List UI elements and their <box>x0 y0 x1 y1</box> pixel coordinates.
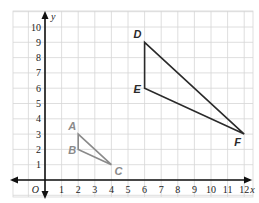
y-axis-label: y <box>50 11 56 22</box>
vertex-label-e: E <box>134 83 142 95</box>
x-tick-label: 5 <box>126 184 131 195</box>
y-tick-label: 9 <box>36 37 41 48</box>
y-tick-label: 2 <box>36 144 41 155</box>
y-tick-label: 4 <box>36 113 41 124</box>
x-tick-label: 1 <box>59 184 64 195</box>
x-tick-label: 12 <box>239 184 249 195</box>
x-tick-label: 3 <box>92 184 97 195</box>
y-tick-label: 5 <box>36 98 41 109</box>
y-tick-label: 10 <box>31 22 41 33</box>
y-tick-label: 3 <box>36 129 41 140</box>
y-tick-label: 7 <box>36 67 41 78</box>
x-tick-label: 7 <box>159 184 164 195</box>
triangles: ABCDEF <box>67 28 244 176</box>
tick-labels: 12345678910111212345678910Oxy <box>31 11 255 195</box>
x-tick-label: 10 <box>206 184 216 195</box>
x-axis-arrow-right-icon <box>244 177 252 184</box>
axes <box>10 11 252 199</box>
vertex-label-f: F <box>234 136 241 148</box>
y-tick-label: 1 <box>36 159 41 170</box>
origin-label: O <box>32 184 39 195</box>
y-axis-arrow-up-icon <box>42 11 49 19</box>
x-axis-arrow-left-icon <box>10 177 18 184</box>
vertex-label-d: D <box>134 28 142 40</box>
x-tick-label: 11 <box>223 184 233 195</box>
x-tick-label: 4 <box>109 184 114 195</box>
x-tick-label: 9 <box>192 184 197 195</box>
x-axis-label: x <box>249 184 255 195</box>
y-tick-label: 8 <box>36 52 41 63</box>
y-tick-label: 6 <box>36 83 41 94</box>
coordinate-plane: 12345678910111212345678910Oxy ABCDEF <box>0 0 259 203</box>
vertex-label-c: C <box>114 165 123 177</box>
x-tick-label: 8 <box>175 184 180 195</box>
vertex-label-b: B <box>68 144 76 156</box>
x-tick-label: 2 <box>76 184 81 195</box>
vertex-label-a: A <box>67 120 76 132</box>
x-tick-label: 6 <box>142 184 147 195</box>
